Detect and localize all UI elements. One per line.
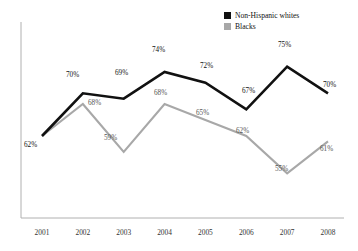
data-label-blacks-3: 65% xyxy=(196,110,209,117)
data-label-whites-2: 69% xyxy=(115,70,128,77)
chart-legend: Non-Hispanic whites Blacks xyxy=(224,12,299,30)
data-label-blacks-1: 59% xyxy=(104,135,117,142)
data-label-whites-4: 72% xyxy=(200,63,213,70)
x-tick-label-2006: 2006 xyxy=(239,229,254,236)
data-label-blacks-0: 68% xyxy=(88,100,101,107)
x-tick-label-2003: 2003 xyxy=(116,229,131,236)
line-chart: Non-Hispanic whites Blacks 62%70%69%74%7… xyxy=(0,0,358,251)
series-line-non-hispanic-whites xyxy=(42,67,328,136)
legend-label-blacks: Blacks xyxy=(235,23,256,31)
legend-swatch-blacks xyxy=(224,23,231,30)
data-label-whites-5: 67% xyxy=(242,88,255,95)
x-tick-label-2002: 2002 xyxy=(75,229,90,236)
x-tick-label-2008: 2008 xyxy=(321,229,336,236)
data-label-blacks-4: 62% xyxy=(236,128,249,135)
data-label-blacks-6: 61% xyxy=(320,146,333,153)
x-tick-label-2001: 2001 xyxy=(35,229,50,236)
data-label-whites-6: 75% xyxy=(278,42,291,49)
legend-swatch-non-hispanic-whites xyxy=(224,12,231,19)
data-label-whites-3: 74% xyxy=(152,47,165,54)
x-tick-label-2005: 2005 xyxy=(198,229,213,236)
data-label-blacks-2: 68% xyxy=(154,90,167,97)
data-label-whites-0: 62% xyxy=(24,142,37,149)
legend-item-blacks: Blacks xyxy=(224,23,299,31)
data-label-blacks-5: 55% xyxy=(275,166,288,173)
x-tick-label-2007: 2007 xyxy=(280,229,295,236)
legend-label-non-hispanic-whites: Non-Hispanic whites xyxy=(235,12,299,20)
x-tick-label-2004: 2004 xyxy=(157,229,172,236)
chart-plot-area xyxy=(0,0,358,251)
legend-item-non-hispanic-whites: Non-Hispanic whites xyxy=(224,12,299,20)
data-label-whites-7: 70% xyxy=(323,82,336,89)
data-label-whites-1: 70% xyxy=(66,72,79,79)
series-line-blacks xyxy=(42,104,328,173)
